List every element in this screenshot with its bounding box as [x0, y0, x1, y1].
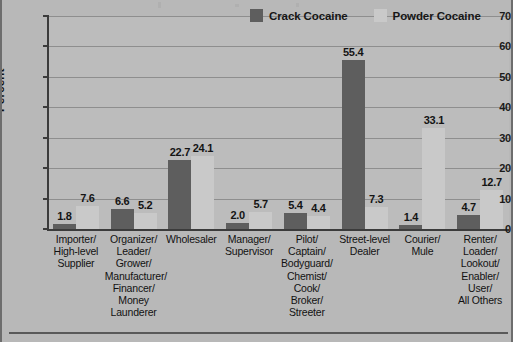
bar-value-label: 5.2	[138, 199, 152, 211]
bar-group: 55.47.3	[342, 16, 388, 229]
x-category-label-line: Financer/	[105, 282, 163, 294]
y-tick-mark	[43, 137, 49, 139]
x-category-label-line: Courier/	[394, 233, 452, 245]
x-category-label-line: High-level	[47, 245, 105, 257]
bar-group: 2.05.7	[226, 16, 272, 229]
x-axis-category-labels: Importer/High-levelSupplierOrganizer/Lea…	[47, 233, 509, 325]
bar-crack: 55.4	[342, 60, 365, 229]
y-tick-mark	[43, 167, 49, 169]
bar-chart-figure: 1.87.66.65.222.724.12.05.75.44.455.47.31…	[0, 0, 513, 342]
x-category-label-line: Mule	[394, 245, 452, 257]
bar-crack: 6.6	[111, 209, 134, 229]
bar-value-label: 22.7	[170, 146, 190, 158]
bar-value-label: 4.7	[461, 201, 475, 213]
x-category-label-line: Leader/	[105, 245, 163, 257]
x-category-label-line: Manufacturer/	[105, 270, 163, 282]
x-category-label-line: Money	[105, 294, 163, 306]
x-category-label-line: Street-level	[336, 233, 394, 245]
y-tick-mark	[43, 76, 49, 78]
x-category-label-line: Loader/	[451, 245, 509, 257]
x-category-label-line: Pilot/	[278, 233, 336, 245]
bar-value-label: 33.1	[424, 114, 444, 126]
x-category-label: Wholesaler	[163, 233, 221, 245]
bar-value-label: 5.4	[288, 199, 302, 211]
x-category-label-line: Lookout/	[451, 257, 509, 269]
scan-artifact	[296, 3, 299, 7]
x-category-label-line: Chemist/	[278, 270, 336, 282]
x-category-label-line: Supervisor	[220, 245, 278, 257]
legend-swatch-icon	[374, 9, 387, 22]
y-tick-label: 30	[477, 132, 511, 144]
x-category-label-line: Importer/	[47, 233, 105, 245]
x-category-label-line: Launderer	[105, 306, 163, 318]
bar-value-label: 7.3	[369, 193, 383, 205]
bar-powder: 24.1	[191, 156, 214, 229]
bar-powder: 7.3	[365, 207, 388, 229]
x-category-label: Manager/Supervisor	[220, 233, 278, 257]
x-category-label: Organizer/Leader/Grower/Manufacturer/Fin…	[105, 233, 163, 318]
x-category-label-line: Supplier	[47, 257, 105, 269]
x-category-label-line: User/	[451, 282, 509, 294]
y-tick-mark	[43, 15, 49, 17]
bar-value-label: 4.4	[311, 202, 325, 214]
bar-crack: 22.7	[168, 160, 191, 229]
bottom-rule	[9, 332, 508, 334]
x-category-label: Courier/Mule	[394, 233, 452, 257]
scan-artifact	[235, 4, 239, 7]
y-tick-label: 40	[477, 101, 511, 113]
bar-powder: 33.1	[422, 128, 445, 229]
bar-value-label: 6.6	[115, 195, 129, 207]
x-category-label: Street-levelDealer	[336, 233, 394, 257]
x-category-label-line: Broker/	[278, 294, 336, 306]
x-category-label-line: Grower/	[105, 257, 163, 269]
x-category-label-line: Wholesaler	[163, 233, 221, 245]
y-tick-mark	[43, 228, 49, 230]
bar-crack: 5.4	[284, 213, 307, 229]
bar-powder: 5.7	[249, 212, 272, 229]
bar-powder: 7.6	[76, 206, 99, 229]
x-category-label-line: Captain/	[278, 245, 336, 257]
bar-group: 1.87.6	[53, 16, 99, 229]
x-category-label-line: Manager/	[220, 233, 278, 245]
scan-artifact	[158, 2, 161, 8]
bar-group: 1.433.1	[399, 16, 445, 229]
y-tick-mark	[43, 106, 49, 108]
x-category-label-line: Renter/	[451, 233, 509, 245]
x-axis-line	[47, 229, 509, 231]
y-tick-label: 10	[477, 193, 511, 205]
bar-value-label: 55.4	[343, 46, 363, 58]
bar-value-label: 1.8	[57, 210, 71, 222]
plot-area: 1.87.66.65.222.724.12.05.75.44.455.47.31…	[47, 16, 509, 229]
y-tick-label: 20	[477, 162, 511, 174]
legend-label: Powder Cocaine	[393, 10, 481, 22]
legend-swatch-icon	[250, 9, 263, 22]
bar-value-label: 12.7	[482, 176, 502, 188]
chart-legend: Crack CocainePowder Cocaine	[250, 9, 481, 22]
bar-powder: 4.4	[307, 216, 330, 229]
bar-group: 22.724.1	[168, 16, 214, 229]
y-tick-label: 50	[477, 71, 511, 83]
bar-value-label: 2.0	[230, 209, 244, 221]
bar-group: 5.44.4	[284, 16, 330, 229]
y-tick-mark	[43, 198, 49, 200]
bar-powder: 5.2	[134, 213, 157, 229]
x-category-label-line: Bodyguard/	[278, 257, 336, 269]
bar-value-label: 5.7	[253, 198, 267, 210]
bar-value-label: 24.1	[193, 142, 213, 154]
x-category-label-line: Streeter	[278, 306, 336, 318]
x-category-label-line: All Others	[451, 294, 509, 306]
legend-label: Crack Cocaine	[269, 10, 348, 22]
y-tick-label: 70	[477, 10, 511, 22]
y-tick-mark	[43, 45, 49, 47]
legend-item[interactable]: Powder Cocaine	[374, 9, 481, 22]
x-category-label-line: Cook/	[278, 282, 336, 294]
bar-value-label: 1.4	[404, 211, 418, 223]
x-category-label: Renter/Loader/Lookout/Enabler/User/All O…	[451, 233, 509, 306]
x-category-label: Importer/High-levelSupplier	[47, 233, 105, 270]
x-category-label-line: Dealer	[336, 245, 394, 257]
x-category-label-line: Enabler/	[451, 270, 509, 282]
x-category-label-line: Organizer/	[105, 233, 163, 245]
y-tick-label: 60	[477, 40, 511, 52]
legend-item[interactable]: Crack Cocaine	[250, 9, 348, 22]
bar-value-label: 7.6	[80, 192, 94, 204]
